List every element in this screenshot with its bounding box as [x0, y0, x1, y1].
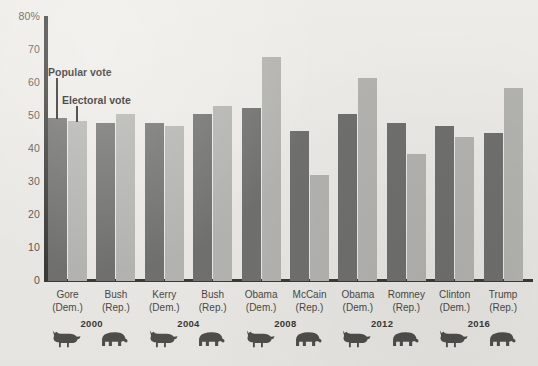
y-axis-tick-70: 70 — [6, 43, 40, 55]
category-label-romney-7: Romney(Rep.) — [381, 288, 432, 314]
bar-electoral-vote-clinton-8 — [455, 137, 474, 281]
annotation-electoral-vote: Electoral vote — [62, 94, 131, 106]
year-label-2004: 2004 — [164, 318, 214, 329]
y-axis-tick-20: 20 — [6, 208, 40, 220]
bar-popular-vote-mccain-5 — [290, 131, 309, 281]
annotation-electoral-vote-leader-line — [76, 106, 78, 122]
bar-popular-vote-gore-0 — [48, 118, 67, 281]
category-label-gore-0: Gore(Dem.) — [42, 288, 93, 314]
elephant-icon — [100, 330, 130, 355]
candidate-name: Romney — [388, 289, 425, 300]
elephant-icon — [391, 330, 421, 355]
candidate-name: Clinton — [439, 289, 470, 300]
candidate-party: (Rep.) — [478, 301, 529, 314]
year-label-2016: 2016 — [454, 318, 504, 329]
bar-popular-vote-romney-7 — [387, 123, 406, 281]
candidate-name: Bush — [201, 289, 224, 300]
y-axis-tick-labels: 80%706050403020100 — [0, 0, 40, 366]
y-axis-tick-30: 30 — [6, 175, 40, 187]
candidate-name: Kerry — [152, 289, 176, 300]
bar-electoral-vote-romney-7 — [407, 154, 426, 281]
y-axis-tick-40: 40 — [6, 142, 40, 154]
bar-electoral-vote-mccain-5 — [310, 175, 329, 281]
bar-electoral-vote-gore-0 — [68, 121, 87, 281]
candidate-name: Bush — [104, 289, 127, 300]
annotation-popular-vote: Popular vote — [48, 66, 112, 78]
y-axis-tick-60: 60 — [6, 76, 40, 88]
candidate-party: (Rep.) — [381, 301, 432, 314]
elephant-icon — [294, 330, 324, 355]
donkey-icon — [246, 330, 276, 355]
candidate-party: (Dem.) — [429, 301, 480, 314]
bar-popular-vote-bush-3 — [193, 114, 212, 281]
category-label-obama-4: Obama(Dem.) — [236, 288, 287, 314]
category-label-clinton-8: Clinton(Dem.) — [429, 288, 480, 314]
category-label-kerry-2: Kerry(Dem.) — [139, 288, 190, 314]
bar-electoral-vote-obama-6 — [358, 78, 377, 281]
bar-popular-vote-obama-6 — [338, 114, 357, 281]
candidate-name: Gore — [56, 289, 78, 300]
bars-layer — [48, 0, 533, 281]
donkey-icon — [439, 330, 469, 355]
bar-popular-vote-trump-9 — [484, 133, 503, 282]
bar-popular-vote-clinton-8 — [435, 126, 454, 281]
bar-popular-vote-obama-4 — [242, 108, 261, 281]
year-label-2008: 2008 — [260, 318, 310, 329]
annotation-popular-vote-leader-line — [56, 78, 58, 119]
candidate-party: (Rep.) — [284, 301, 335, 314]
bar-electoral-vote-obama-4 — [262, 57, 281, 281]
y-axis-tick-0: 0 — [6, 274, 40, 286]
bar-electoral-vote-trump-9 — [504, 88, 523, 281]
category-label-obama-6: Obama(Dem.) — [332, 288, 383, 314]
year-label-2012: 2012 — [357, 318, 407, 329]
category-label-trump-9: Trump(Rep.) — [478, 288, 529, 314]
bar-popular-vote-bush-1 — [96, 123, 115, 281]
candidate-name: Obama — [245, 289, 278, 300]
candidate-name: Trump — [489, 289, 518, 300]
candidate-party: (Dem.) — [42, 301, 93, 314]
bar-popular-vote-kerry-2 — [145, 123, 164, 281]
y-axis-tick-10: 10 — [6, 241, 40, 253]
candidate-name: McCain — [293, 289, 327, 300]
donkey-icon — [342, 330, 372, 355]
category-label-bush-1: Bush(Rep.) — [90, 288, 141, 314]
candidate-name: Obama — [341, 289, 374, 300]
bar-electoral-vote-bush-1 — [116, 114, 135, 281]
candidate-party: (Dem.) — [236, 301, 287, 314]
election-vote-share-chart: 80%706050403020100 Gore(Dem.)Bush(Rep.)K… — [0, 0, 538, 366]
year-label-2000: 2000 — [67, 318, 117, 329]
elephant-icon — [488, 330, 518, 355]
bar-electoral-vote-kerry-2 — [165, 126, 184, 281]
candidate-party: (Rep.) — [90, 301, 141, 314]
candidate-party: (Dem.) — [139, 301, 190, 314]
y-axis-tick-80: 80% — [6, 10, 40, 22]
bar-electoral-vote-bush-3 — [213, 106, 232, 281]
y-axis-tick-50: 50 — [6, 109, 40, 121]
category-label-mccain-5: McCain(Rep.) — [284, 288, 335, 314]
candidate-party: (Dem.) — [332, 301, 383, 314]
donkey-icon — [149, 330, 179, 355]
category-label-bush-3: Bush(Rep.) — [187, 288, 238, 314]
donkey-icon — [52, 330, 82, 355]
candidate-party: (Rep.) — [187, 301, 238, 314]
elephant-icon — [197, 330, 227, 355]
